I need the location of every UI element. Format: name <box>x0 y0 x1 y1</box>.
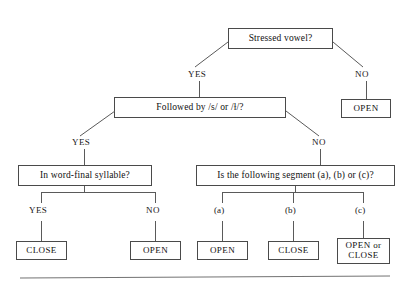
edge-label-segment-b: (b) <box>285 205 296 215</box>
connector-wordfinal-yes-down <box>41 221 42 241</box>
connector-wordfinal-yes-up <box>41 192 42 203</box>
connector-segment-a-down <box>222 221 223 241</box>
connector-followed-yes-drop <box>84 149 85 165</box>
terminal-open-top-right: OPEN <box>341 99 391 118</box>
connector-segment-b-down <box>293 221 294 241</box>
connector-segment-a-up <box>222 192 223 203</box>
edge-root-yes <box>193 42 229 68</box>
edge-followed-yes <box>78 111 116 137</box>
connector-segment-stem <box>295 186 296 192</box>
connector-root-yes-drop <box>199 81 200 97</box>
terminal-open-or-close-line2: CLOSE <box>348 251 379 261</box>
edge-followed-no <box>286 111 322 137</box>
terminal-open-a: OPEN <box>197 241 248 260</box>
connector-wordfinal-no-up <box>155 192 156 203</box>
edge-label-root-yes: YES <box>188 69 206 79</box>
node-following-segment: Is the following segment (a), (b) or (c)… <box>196 165 395 186</box>
edge-label-followed-no: NO <box>312 137 326 147</box>
node-stressed-vowel: Stressed vowel? <box>228 28 333 49</box>
edge-root-no <box>333 42 365 68</box>
connector-followed-no-drop <box>320 149 321 165</box>
edge-label-wordfinal-yes: YES <box>29 205 47 215</box>
edge-label-segment-a: (a) <box>214 205 224 215</box>
connector-wordfinal-bus <box>41 192 155 193</box>
connector-segment-c-down <box>363 221 364 238</box>
connector-segment-b-up <box>293 192 294 203</box>
flowchart-canvas: Stressed vowel? YES NO Followed by /s/ o… <box>0 0 406 289</box>
terminal-open-or-close-c: OPEN or CLOSE <box>337 238 390 264</box>
edge-label-followed-yes: YES <box>72 137 90 147</box>
terminal-close-left: CLOSE <box>16 241 67 260</box>
terminal-open-mid: OPEN <box>130 241 181 260</box>
edge-label-root-no: NO <box>355 69 369 79</box>
edge-label-segment-c: (c) <box>355 205 365 215</box>
page-rule <box>20 276 390 278</box>
connector-wordfinal-no-down <box>155 221 156 241</box>
connector-root-no-drop <box>366 81 367 99</box>
node-followed-by: Followed by /s/ or /ɫ/? <box>114 97 286 118</box>
connector-wordfinal-stem <box>84 186 85 192</box>
edge-label-wordfinal-no: NO <box>146 205 160 215</box>
node-word-final-syllable: In word-final syllable? <box>18 165 152 186</box>
connector-segment-c-up <box>363 192 364 203</box>
terminal-close-b: CLOSE <box>268 241 319 260</box>
